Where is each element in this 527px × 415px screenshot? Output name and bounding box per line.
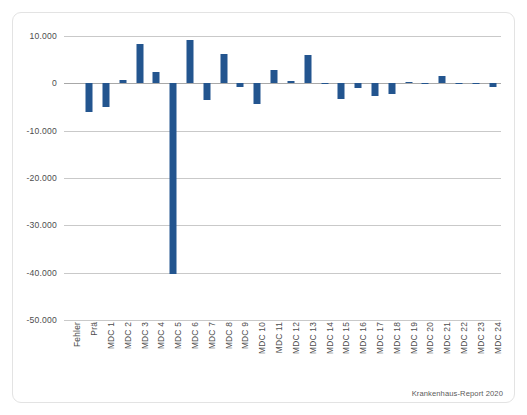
bar-slot	[232, 36, 249, 320]
bar	[119, 80, 126, 83]
bar-slot	[114, 36, 131, 320]
bar	[489, 83, 496, 86]
bar-slot	[266, 36, 283, 320]
bar-slot	[64, 36, 81, 320]
bar-slot	[434, 36, 451, 320]
bar-slot	[98, 36, 115, 320]
bar-slot	[165, 36, 182, 320]
bar-slot	[81, 36, 98, 320]
bar-slot	[400, 36, 417, 320]
bar	[405, 82, 412, 83]
bar	[254, 83, 261, 104]
bar-slot	[182, 36, 199, 320]
bar	[86, 83, 93, 111]
bar	[136, 44, 143, 83]
bar	[422, 83, 429, 84]
bar	[439, 76, 446, 84]
bar	[472, 83, 479, 84]
y-axis-tick-label: -30.000	[26, 220, 57, 230]
bar-slot	[299, 36, 316, 320]
bar	[388, 83, 395, 94]
bar	[203, 83, 210, 100]
bar	[103, 83, 110, 107]
y-axis-tick-label: -20.000	[26, 173, 57, 183]
gridline: -50.000	[64, 320, 501, 321]
bar-series	[64, 36, 501, 320]
plot-area: 10.0000-10.000-20.000-30.000-40.000-50.0…	[64, 36, 501, 320]
bar-slot	[451, 36, 468, 320]
source-note: Krankenhaus-Report 2020	[412, 389, 503, 398]
bar-slot	[350, 36, 367, 320]
bar	[153, 72, 160, 84]
bar-slot	[198, 36, 215, 320]
bar-slot	[316, 36, 333, 320]
bar	[287, 81, 294, 83]
y-axis-tick-label: -40.000	[26, 268, 57, 278]
bar-slot	[383, 36, 400, 320]
bar	[170, 83, 177, 273]
bar	[321, 83, 328, 84]
y-axis-tick-label: -10.000	[26, 126, 57, 136]
bar	[220, 54, 227, 83]
y-axis-tick-label: 0	[52, 78, 57, 88]
bar-slot	[131, 36, 148, 320]
bar-slot	[467, 36, 484, 320]
bar	[455, 83, 462, 84]
x-axis-labels: FehlerPräMDC 1MDC 2MDC 3MDC 4MDC 5MDC 6M…	[64, 322, 501, 384]
bar-slot	[333, 36, 350, 320]
bar	[237, 83, 244, 87]
bar-slot	[417, 36, 434, 320]
bar	[371, 83, 378, 96]
y-axis-tick-label: -50.000	[26, 315, 57, 325]
chart-figure: 10.0000-10.000-20.000-30.000-40.000-50.0…	[0, 0, 527, 415]
bar-slot	[148, 36, 165, 320]
bar	[338, 83, 345, 99]
bar-slot	[484, 36, 501, 320]
bar	[187, 40, 194, 83]
bar	[355, 83, 362, 87]
bar-slot	[367, 36, 384, 320]
bar-slot	[249, 36, 266, 320]
bar-slot	[283, 36, 300, 320]
bar	[271, 70, 278, 83]
y-axis-tick-label: 10.000	[30, 31, 58, 41]
bar	[304, 55, 311, 83]
bar-slot	[215, 36, 232, 320]
